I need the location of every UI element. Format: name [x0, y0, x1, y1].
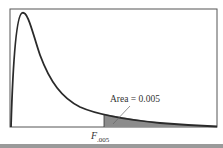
area-annotation: Area = 0.005	[110, 94, 160, 104]
critical-value-label: F.005	[91, 130, 109, 144]
plot-frame	[10, 9, 217, 127]
f-subscript: .005	[97, 136, 109, 144]
bottom-divider	[0, 144, 223, 148]
f-distribution-diagram	[0, 0, 223, 148]
